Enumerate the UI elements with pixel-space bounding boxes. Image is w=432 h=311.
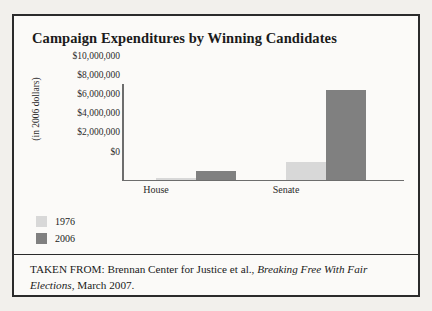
x-category-label-senate: Senate [231,184,341,195]
caption-suffix: , March 2007. [72,279,135,291]
y-tick-label: $6,000,000 [77,89,120,99]
figure-frame: Campaign Expenditures by Winning Candida… [12,14,420,297]
caption-prefix: TAKEN FROM: Brennan Center for Justice e… [30,263,257,275]
bar-house-2006 [196,171,236,179]
legend-label-1976: 1976 [55,216,75,227]
legend-swatch-1976 [36,216,47,227]
y-tick-label: $8,000,000 [77,70,120,80]
legend-label-2006: 2006 [55,233,75,244]
bar-group-house [156,84,236,180]
y-axis-tick-labels: $10,000,000 $8,000,000 $6,000,000 $4,000… [42,56,120,181]
bar-senate-2006 [326,90,366,180]
plot-area: (in 2006 dollars) $10,000,000 $8,000,000… [14,56,418,206]
legend-item-1976: 1976 [36,214,75,228]
bars-layer [122,84,404,180]
y-tick-label: $10,000,000 [73,51,121,61]
x-axis-line [122,180,404,182]
y-tick-label: $2,000,000 [77,127,120,137]
chart-legend: 1976 2006 [36,214,75,248]
bar-group-senate [286,84,366,180]
x-category-label-house: House [101,184,211,195]
y-tick-label: $4,000,000 [77,108,120,118]
bar-senate-1976 [286,162,326,179]
y-tick-label: $0 [111,147,121,157]
y-axis-title: (in 2006 dollars) [31,59,41,159]
caption-divider [14,254,418,255]
source-caption: TAKEN FROM: Brennan Center for Justice e… [30,262,404,293]
chart-title: Campaign Expenditures by Winning Candida… [32,30,337,47]
legend-swatch-2006 [36,233,47,244]
legend-item-2006: 2006 [36,231,75,245]
bar-house-1976 [156,178,196,180]
